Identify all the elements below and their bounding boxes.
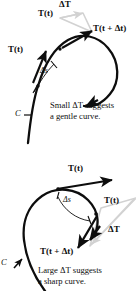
curve-label-tick-bottom [14, 259, 22, 268]
triangle-delta-arrow-top [60, 13, 83, 18]
label-tangent-t-apex-bottom: T(t) [104, 196, 119, 205]
tangent-vector-t-dt-top [62, 31, 92, 48]
label-tangent-t-dt-bottom: T(t + Δt) [40, 247, 73, 256]
arc-tick-end-bottom [88, 216, 91, 224]
arc-tick-upper-top [51, 61, 57, 68]
caption-top-line2: a gentle curve. [50, 111, 114, 122]
caption-bottom: Large ΔT suggests a sharp curve. [38, 265, 102, 286]
label-delta-s-top: Δs [40, 67, 48, 75]
triangle-outline-top [60, 13, 92, 32]
label-tangent-t-top: T(t) [8, 45, 23, 54]
delta-t-triangle-top [60, 13, 92, 32]
label-delta-t-top: ΔT [59, 0, 71, 9]
label-tangent-t-bottom: T(t) [68, 164, 83, 173]
caption-bottom-line2: a sharp curve. [38, 276, 102, 287]
label-delta-s-bottom: Δs [63, 196, 71, 204]
curve-top [28, 36, 117, 143]
tangent-point-t-dt-bottom [94, 212, 98, 216]
caption-top: Small ΔT suggests a gentle curve. [50, 100, 114, 121]
label-tangent-t-dt-top: T(t + Δt) [93, 24, 126, 33]
curvature-figure: ΔT T(t) T(t + Δt) T(t) Δs C Small ΔT sug… [0, 0, 136, 291]
tangent-point-t-dt-top [58, 47, 61, 50]
label-delta-t-bottom: ΔT [108, 225, 120, 234]
caption-bottom-line1: Large ΔT suggests [38, 265, 102, 276]
label-tangent-t-apex-top: T(t) [38, 9, 53, 18]
tangent-vector-t-bottom [57, 180, 112, 189]
label-curve-c-top: C [15, 109, 21, 118]
label-curve-c-bottom: C [1, 258, 7, 267]
caption-top-line1: Small ΔT suggests [50, 100, 114, 111]
